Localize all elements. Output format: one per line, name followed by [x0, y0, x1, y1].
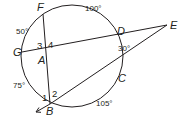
arc-label-GF: 50° [16, 27, 28, 36]
arc-label-BC: 105° [96, 99, 113, 108]
arc-label-DC: 30° [118, 44, 130, 53]
point-label-D: D [117, 25, 125, 37]
point-label-E: E [170, 19, 178, 31]
point-label-F: F [37, 1, 45, 13]
angle-label-2: 2 [52, 88, 57, 99]
circle [21, 5, 123, 107]
point-label-G: G [13, 46, 22, 58]
point-label-A: A [37, 54, 45, 66]
angle-label-1: 1 [42, 92, 47, 103]
angle-label-4: 4 [48, 39, 53, 50]
point-label-B: B [46, 105, 53, 117]
geometry-diagram: F G A D E C B 100° 50° 30° 75° 105° 3 4 … [0, 0, 179, 120]
arc-label-FD: 100° [85, 4, 102, 13]
arc-label-GB: 75° [13, 81, 25, 90]
point-label-C: C [118, 72, 126, 84]
angle-label-3: 3 [37, 40, 42, 51]
